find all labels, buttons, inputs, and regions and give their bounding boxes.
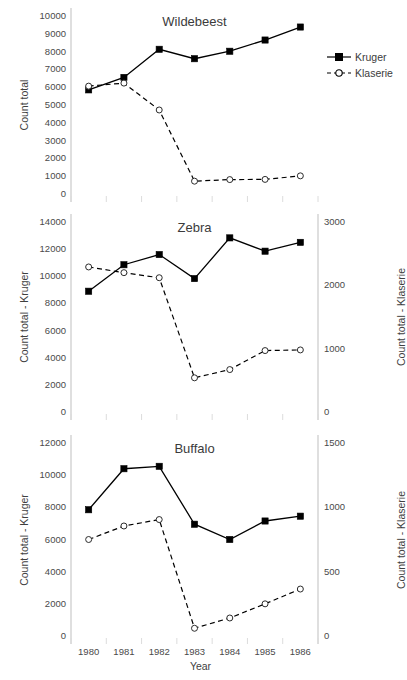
chart-legend: KrugerKlaserie xyxy=(326,49,393,81)
y-tick-label: 8000 xyxy=(45,46,66,57)
x-tick-label: 1985 xyxy=(245,646,285,657)
y-tick-label: 6000 xyxy=(45,534,66,545)
legend-item-klaserie[interactable]: Klaserie xyxy=(326,65,393,81)
panel-title-buffalo: Buffalo xyxy=(71,441,318,456)
data-point-klaserie-1982 xyxy=(156,107,162,113)
data-point-kruger-1982 xyxy=(156,46,162,52)
panel-buffalo xyxy=(71,435,318,644)
x-tick-label: 1981 xyxy=(104,646,144,657)
y2-tick-label: 3000 xyxy=(324,216,345,227)
y2-axis-title: Count total - Klaserie xyxy=(395,490,407,588)
series-line-klaserie xyxy=(89,267,301,378)
y-tick-label: 10000 xyxy=(40,270,66,281)
x-tick-label: 1982 xyxy=(139,646,179,657)
y-tick-label: 6000 xyxy=(45,81,66,92)
y2-axis-title: Count total - Klaserie xyxy=(395,268,407,366)
data-point-klaserie-1980 xyxy=(86,83,92,89)
data-point-klaserie-1985 xyxy=(262,348,268,354)
data-point-klaserie-1986 xyxy=(297,173,303,179)
y-tick-label: 10000 xyxy=(40,10,66,21)
y-tick-label: 2000 xyxy=(45,152,66,163)
data-point-kruger-1984 xyxy=(227,48,233,54)
data-point-klaserie-1983 xyxy=(192,178,198,184)
panel-wildebeest xyxy=(71,8,318,202)
y-tick-label: 2000 xyxy=(45,379,66,390)
y-tick-label: 0 xyxy=(61,630,66,641)
y2-tick-label: 0 xyxy=(324,406,329,417)
data-point-kruger-1985 xyxy=(262,518,268,524)
y2-tick-label: 1500 xyxy=(324,437,345,448)
y-tick-label: 1000 xyxy=(45,170,66,181)
y-tick-label: 12000 xyxy=(40,437,66,448)
data-point-kruger-1981 xyxy=(121,466,127,472)
y-tick-label: 8000 xyxy=(45,501,66,512)
data-point-klaserie-1986 xyxy=(297,347,303,353)
data-point-klaserie-1985 xyxy=(262,176,268,182)
data-point-kruger-1983 xyxy=(191,521,197,527)
y2-tick-label: 500 xyxy=(324,566,340,577)
y2-tick-label: 2000 xyxy=(324,279,345,290)
panel-zebra xyxy=(71,214,318,420)
y-tick-label: 4000 xyxy=(45,352,66,363)
y-tick-label: 6000 xyxy=(45,325,66,336)
data-point-klaserie-1986 xyxy=(297,586,303,592)
data-point-klaserie-1984 xyxy=(227,367,233,373)
data-point-kruger-1984 xyxy=(227,536,233,542)
y-tick-label: 14000 xyxy=(40,216,66,227)
data-point-klaserie-1983 xyxy=(192,625,198,631)
legend-marker-filled-square xyxy=(326,50,352,64)
data-point-kruger-1981 xyxy=(121,74,127,80)
data-point-kruger-1985 xyxy=(262,248,268,254)
y-tick-label: 12000 xyxy=(40,243,66,254)
panel-title-wildebeest: Wildebeest xyxy=(71,14,318,29)
data-point-kruger-1986 xyxy=(297,513,303,519)
data-point-klaserie-1982 xyxy=(156,275,162,281)
data-point-klaserie-1983 xyxy=(192,375,198,381)
data-point-kruger-1980 xyxy=(86,507,92,513)
data-point-klaserie-1984 xyxy=(227,177,233,183)
y-axis-title: Count total - Kruger xyxy=(18,494,30,586)
y-tick-label: 0 xyxy=(61,188,66,199)
y-tick-label: 10000 xyxy=(40,469,66,480)
y-tick-label: 3000 xyxy=(45,135,66,146)
data-point-kruger-1981 xyxy=(121,262,127,268)
data-point-kruger-1982 xyxy=(156,463,162,469)
y-tick-label: 9000 xyxy=(45,28,66,39)
panel-title-zebra: Zebra xyxy=(71,220,318,235)
y-axis-title: Count total - Kruger xyxy=(18,271,30,363)
data-point-klaserie-1981 xyxy=(121,80,127,86)
y-tick-label: 2000 xyxy=(45,598,66,609)
y2-tick-label: 1000 xyxy=(324,501,345,512)
series-line-kruger xyxy=(89,238,301,291)
x-tick-label: 1986 xyxy=(280,646,320,657)
x-tick-label: 1983 xyxy=(175,646,215,657)
data-point-kruger-1982 xyxy=(156,251,162,257)
legend-marker-open-circle xyxy=(326,66,352,80)
data-point-klaserie-1981 xyxy=(121,270,127,276)
y-tick-label: 0 xyxy=(61,406,66,417)
data-point-kruger-1983 xyxy=(191,56,197,62)
y-tick-label: 8000 xyxy=(45,297,66,308)
legend-label: Kruger xyxy=(355,50,387,64)
data-point-klaserie-1980 xyxy=(86,537,92,543)
y-tick-label: 5000 xyxy=(45,99,66,110)
data-point-kruger-1985 xyxy=(262,37,268,43)
data-point-kruger-1980 xyxy=(86,288,92,294)
data-point-klaserie-1984 xyxy=(227,615,233,621)
y-tick-label: 4000 xyxy=(45,566,66,577)
series-line-kruger xyxy=(89,466,301,539)
data-point-kruger-1983 xyxy=(191,275,197,281)
data-point-kruger-1984 xyxy=(227,235,233,241)
x-tick-label: 1984 xyxy=(210,646,250,657)
data-point-klaserie-1981 xyxy=(121,523,127,529)
x-tick-label: 1980 xyxy=(69,646,109,657)
y-axis-title: Count total xyxy=(18,80,30,131)
data-point-klaserie-1985 xyxy=(262,601,268,607)
legend-item-kruger[interactable]: Kruger xyxy=(326,49,393,65)
y-tick-label: 4000 xyxy=(45,117,66,128)
y-tick-label: 7000 xyxy=(45,63,66,74)
legend-label: Klaserie xyxy=(355,66,393,80)
x-axis-title: Year xyxy=(0,660,401,672)
data-point-klaserie-1982 xyxy=(156,517,162,523)
